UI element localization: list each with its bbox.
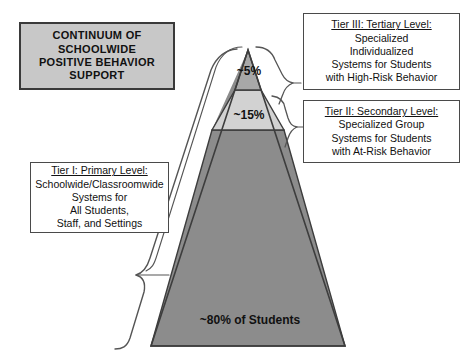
- title-line-3: POSITIVE BEHAVIOR: [39, 56, 155, 69]
- title-box: CONTINUUM OF SCHOOLWIDE POSITIVE BEHAVIO…: [19, 22, 175, 90]
- tier1-heading: Tier I: Primary Level:: [51, 164, 147, 177]
- tier2-line-3: with At-Risk Behavior: [332, 145, 431, 158]
- tier3-callout-box: Tier III: Tertiary Level: Specialized In…: [303, 13, 460, 90]
- tier3-line-1: Specialized: [355, 32, 409, 45]
- tier2-line-2: Systems for Students: [332, 132, 432, 145]
- tier3-heading: Tier III: Tertiary Level:: [331, 18, 431, 31]
- pyramid-top-label: ~5%: [224, 64, 274, 78]
- tier3-line-3: Systems for Students: [332, 58, 432, 71]
- title-line-2: SCHOOLWIDE: [58, 43, 136, 56]
- tier1-line-2: Systems for: [72, 191, 127, 204]
- pyramid-base-label: ~80% of Students: [185, 313, 315, 327]
- tier1-line-3: All Students,: [70, 204, 129, 217]
- pyramid-middle-label: ~15%: [214, 108, 284, 122]
- tier3-line-2: Individualized: [350, 45, 414, 58]
- tier1-line-1: Schoolwide/Classroomwide: [35, 178, 163, 191]
- title-line-4: SUPPORT: [69, 69, 124, 82]
- tier2-line-1: Specialized Group: [339, 118, 425, 131]
- tier2-callout-box: Tier II: Secondary Level: Specialized Gr…: [303, 100, 460, 163]
- title-line-1: CONTINUUM OF: [52, 29, 141, 42]
- diagram-canvas: CONTINUUM OF SCHOOLWIDE POSITIVE BEHAVIO…: [0, 0, 467, 363]
- tier2-heading: Tier II: Secondary Level:: [325, 105, 438, 118]
- tier3-line-4: with High-Risk Behavior: [326, 71, 437, 84]
- tier1-line-4: Staff, and Settings: [57, 217, 143, 230]
- tier1-callout-box: Tier I: Primary Level: Schoolwide/Classr…: [30, 162, 169, 233]
